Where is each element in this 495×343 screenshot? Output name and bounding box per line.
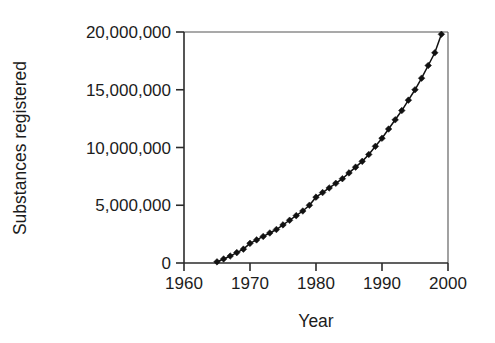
y-tick-label: 0: [162, 254, 171, 273]
y-axis-title: Substances registered: [10, 61, 30, 235]
y-tick-label: 15,000,000: [86, 81, 171, 100]
x-tick-label: 1980: [297, 274, 335, 293]
y-tick-label: 20,000,000: [86, 23, 171, 42]
x-tick-label: 1970: [231, 274, 269, 293]
y-tick-label: 5,000,000: [95, 196, 171, 215]
x-axis-title: Year: [298, 311, 334, 331]
x-tick-label: 1990: [363, 274, 401, 293]
x-tick-label: 1960: [165, 274, 203, 293]
substances-registered-line-chart: 05,000,00010,000,00015,000,00020,000,000…: [0, 0, 495, 343]
chart-figure: 05,000,00010,000,00015,000,00020,000,000…: [0, 0, 495, 343]
y-tick-label: 10,000,000: [86, 139, 171, 158]
x-tick-label: 2000: [429, 274, 467, 293]
